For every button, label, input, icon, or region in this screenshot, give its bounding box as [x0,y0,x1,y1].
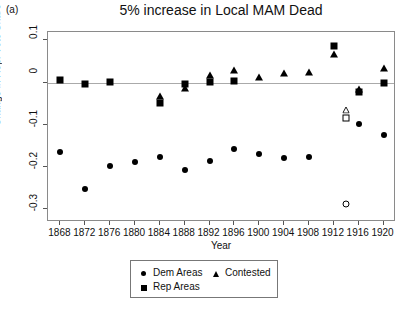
data-point-circle [381,132,387,138]
data-point-square [82,80,89,87]
data-point-circle [356,121,362,127]
x-tick-label: 1896 [222,227,244,238]
data-point-triangle [206,72,214,79]
data-point-triangle [181,84,189,91]
x-tick-label: 1880 [123,227,145,238]
data-point-circle [256,151,262,157]
x-tick-mark [84,221,85,225]
x-tick-mark [59,221,60,225]
x-tick-mark [184,221,185,225]
y-tick-label: 0.1 [28,25,39,39]
chart-figure: (a) 5% increase in Local MAM Dead Change… [0,0,407,311]
data-point-square [380,79,387,86]
x-axis-label: Year [47,240,395,251]
data-point-circle [231,146,237,152]
data-point-square [330,42,337,49]
x-tick-mark [233,221,234,225]
x-tick-label: 1912 [322,227,344,238]
legend-marker-circle [141,271,146,276]
data-point-triangle [280,69,288,76]
data-point-square [206,79,213,86]
x-tick-label: 1868 [48,227,70,238]
x-tick-mark [333,221,334,225]
x-tick-mark [383,221,384,225]
data-point-square [107,78,114,85]
data-point-triangle [355,85,363,92]
legend-label: Contested [225,267,271,278]
data-point-triangle [156,93,164,100]
x-tick-mark [283,221,284,225]
x-tick-label: 1900 [247,227,269,238]
data-point-circle [182,167,188,173]
x-tick-label: 1884 [148,227,170,238]
data-point-circle [207,158,213,164]
data-point-triangle [230,66,238,73]
x-tick-label: 1904 [272,227,294,238]
y-tick-label: 0 [28,68,39,74]
y-tick-label: -0.1 [28,110,39,127]
y-tick-label: -0.2 [28,152,39,169]
data-point-circle [82,186,88,192]
x-tick-label: 1892 [197,227,219,238]
data-point-circle [107,163,113,169]
y-axis-label: Change in Rep. Vote Share [0,4,2,126]
x-tick-mark [109,221,110,225]
legend: Dem AreasContestedRep Areas [130,260,278,298]
x-tick-label: 1920 [371,227,393,238]
data-point-square [156,99,163,106]
x-tick-mark [159,221,160,225]
x-tick-label: 1908 [297,227,319,238]
legend-label: Rep Areas [153,281,200,292]
data-point-triangle [255,73,263,80]
panel-label: (a) [6,4,18,15]
x-tick-mark [358,221,359,225]
legend-marker-square [141,285,147,291]
zero-reference-line [48,83,394,84]
data-point-triangle [305,68,313,75]
data-point-circle [343,200,350,207]
x-tick-mark [258,221,259,225]
data-point-circle [306,154,312,160]
data-point-square [57,77,64,84]
legend-marker-triangle [213,271,219,277]
data-point-circle [281,155,287,161]
chart-title: 5% increase in Local MAM Dead [47,2,395,18]
y-tick-label: -0.3 [28,194,39,211]
plot-area [47,31,395,221]
data-point-triangle [380,64,388,71]
data-point-circle [57,149,63,155]
data-point-triangle [343,99,350,106]
data-point-circle [132,159,138,165]
x-tick-label: 1888 [173,227,195,238]
data-point-square [231,77,238,84]
legend-label: Dem Areas [153,267,202,278]
data-point-triangle [330,50,338,57]
data-point-circle [157,154,163,160]
x-tick-label: 1916 [347,227,369,238]
x-tick-mark [134,221,135,225]
x-tick-mark [308,221,309,225]
x-tick-label: 1876 [98,227,120,238]
x-tick-mark [209,221,210,225]
data-point-square [343,114,350,121]
x-tick-label: 1872 [73,227,95,238]
